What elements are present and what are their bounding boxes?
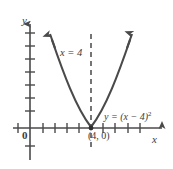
y-axis-label: y [22,15,27,26]
equation-label: y = (x − 4)2 [104,111,151,122]
x-axis-label: x [152,134,157,145]
parabola-left-arrow [50,34,55,48]
parabola-figure: y x 0 (4, 0) x = 4 y = (x − 4)2 [0,0,173,169]
equation-text: y = (x − 4) [104,111,148,122]
axis-of-symmetry-label: x = 4 [60,48,82,59]
origin-label: 0 [22,130,28,141]
equation-exponent: 2 [148,110,151,117]
parabola-right-arrow [127,34,132,48]
vertex-coordinate-label: (4, 0) [88,131,110,141]
